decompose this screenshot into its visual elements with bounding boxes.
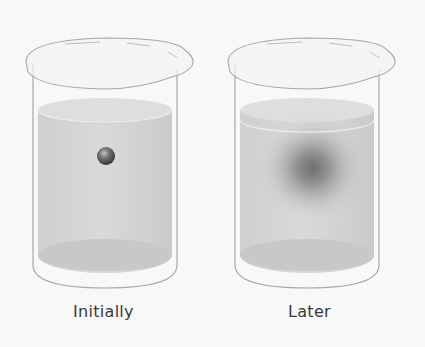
diffusion-diagram bbox=[0, 0, 425, 347]
diffused-solute-cloud bbox=[262, 118, 362, 218]
solute-sphere bbox=[97, 147, 115, 165]
beaker-later bbox=[228, 38, 395, 288]
beaker-initially bbox=[26, 38, 193, 288]
label-later: Later bbox=[288, 302, 331, 321]
label-initially: Initially bbox=[73, 302, 134, 321]
